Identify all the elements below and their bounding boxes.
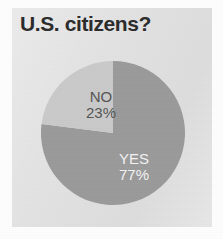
- pie-chart-svg: [41, 61, 185, 205]
- page-title: U.S. citizens?: [20, 12, 151, 36]
- screenshot-root: U.S. citizens? NO 23% YES 77%: [0, 0, 223, 239]
- pie-slice-no[interactable]: [42, 61, 113, 133]
- pie-chart: NO 23% YES 77%: [41, 61, 185, 205]
